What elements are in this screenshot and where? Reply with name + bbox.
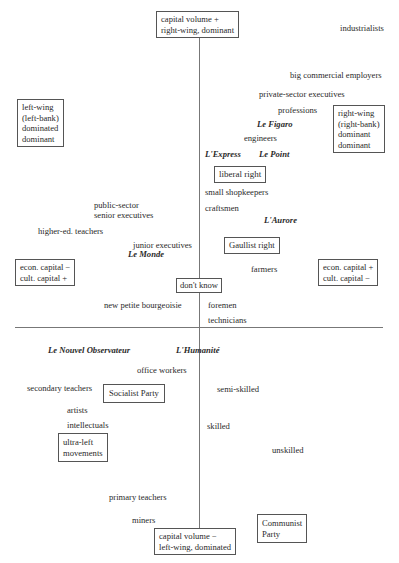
label-public-exec-2: senior executives: [94, 210, 153, 221]
communist-party-box: Communist Party: [257, 514, 307, 543]
ultra-left-box: ultra-left movements: [58, 433, 108, 462]
label-intellectuals: intellectuals: [67, 420, 109, 431]
liberal-right-box: liberal right: [214, 166, 266, 183]
left-mid-line1: econ. capital −: [20, 262, 70, 273]
label-higher-ed: higher-ed. teachers: [38, 226, 103, 237]
label-industrialists: industrialists: [340, 23, 384, 34]
label-artists: artists: [67, 405, 88, 416]
left-upper-line1: left-wing: [22, 102, 59, 113]
axis-left-upper-box: left-wing (left-bank) dominated dominant: [17, 99, 64, 147]
axis-bottom-line1: capital volume −: [159, 531, 231, 542]
label-private-exec: private-sector executives: [259, 89, 345, 100]
label-nouvel-obs: Le Nouvel Observateur: [48, 345, 130, 356]
axis-top-line2: right-wing, dominant: [161, 25, 234, 36]
label-le-figaro: Le Figaro: [257, 119, 293, 130]
label-engineers: engineers: [244, 133, 277, 144]
axis-top-line1: capital volume +: [161, 14, 234, 25]
horizontal-axis: [15, 327, 383, 328]
socialist-party-label: Socialist Party: [109, 388, 159, 398]
label-laurore: L'Aurore: [264, 215, 297, 226]
left-upper-line2: (left-bank): [22, 113, 59, 124]
liberal-right-label: liberal right: [219, 169, 261, 179]
axis-right-upper-box: right-wing (right-bank) dominant dominan…: [333, 105, 385, 153]
label-public-exec-1: public-sector: [94, 200, 139, 211]
label-secondary-teachers: secondary teachers: [27, 383, 92, 394]
dont-know-box: don't know: [176, 278, 222, 293]
label-professions: professions: [278, 105, 317, 116]
right-upper-line4: dominant: [338, 140, 380, 151]
label-farmers: farmers: [251, 264, 277, 275]
label-skilled: skilled: [207, 421, 230, 432]
label-le-point: Le Point: [259, 149, 289, 160]
label-new-petite: new petite bourgeoisie: [104, 300, 182, 311]
left-mid-line2: cult. capital +: [20, 273, 70, 284]
label-miners: miners: [132, 515, 155, 526]
label-le-monde: Le Monde: [128, 249, 164, 260]
label-semi-skilled: semi-skilled: [217, 384, 259, 395]
right-upper-line3: dominant: [338, 129, 380, 140]
dont-know-label: don't know: [180, 280, 218, 290]
axis-top-box: capital volume + right-wing, dominant: [156, 11, 239, 38]
right-mid-line2: cult. capital −: [323, 273, 373, 284]
axis-right-mid-box: econ. capital + cult. capital −: [318, 259, 378, 286]
label-foremen: foremen: [208, 300, 237, 311]
ultra-left-line1: ultra-left: [63, 437, 103, 448]
axis-bottom-line2: left-wing, dominated: [159, 542, 231, 553]
communist-line2: Party: [262, 529, 302, 540]
ultra-left-line2: movements: [63, 448, 103, 459]
axis-bottom-box: capital volume − left-wing, dominated: [154, 528, 236, 555]
label-technicians: technicians: [208, 315, 247, 326]
label-unskilled: unskilled: [272, 445, 304, 456]
communist-line1: Communist: [262, 518, 302, 529]
right-mid-line1: econ. capital +: [323, 262, 373, 273]
label-small-shopkeepers: small shopkeepers: [205, 187, 268, 198]
label-lexpress: L'Express: [205, 149, 241, 160]
left-upper-line3: dominated: [22, 123, 59, 134]
socialist-party-box: Socialist Party: [103, 384, 165, 403]
label-big-commercial: big commercial employers: [290, 70, 382, 81]
label-lhumanite: L'Humanité: [176, 345, 219, 356]
label-craftsmen: craftsmen: [205, 203, 239, 214]
left-upper-line4: dominant: [22, 134, 59, 145]
gaullist-right-label: Gaullist right: [229, 240, 275, 250]
axis-left-mid-box: econ. capital − cult. capital +: [15, 259, 75, 286]
label-primary-teachers: primary teachers: [109, 492, 167, 503]
right-upper-line1: right-wing: [338, 108, 380, 119]
right-upper-line2: (right-bank): [338, 119, 380, 130]
label-office-workers: office workers: [137, 365, 187, 376]
gaullist-right-box: Gaullist right: [224, 237, 280, 254]
